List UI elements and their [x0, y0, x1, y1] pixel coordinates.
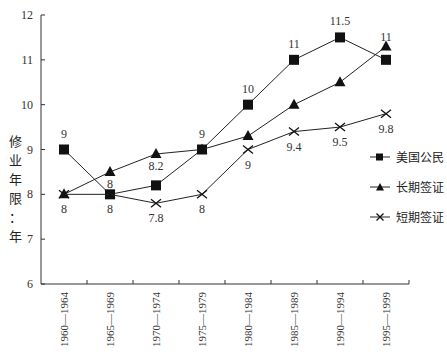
- y-tick-label: 9: [27, 143, 33, 157]
- x-tick-label: 1995—1999: [380, 292, 392, 348]
- legend-label: 美国公民: [396, 148, 444, 166]
- x-marker: [243, 146, 253, 154]
- legend-item-long-term-visa: 长期签证: [370, 172, 444, 202]
- x-tick-label: 1990—1994: [334, 292, 346, 348]
- data-label: 11: [380, 30, 392, 44]
- square-marker: [381, 55, 391, 65]
- x-tick-label: 1960—1964: [58, 292, 70, 348]
- y-tick-label: 11: [21, 53, 33, 67]
- data-label: 9: [61, 127, 67, 141]
- y-label-char: 年: [8, 170, 22, 189]
- y-tick-label: 8: [27, 187, 33, 201]
- y-tick-label: 6: [27, 277, 33, 291]
- axes: 67891011121960—19641965—19691970—1974197…: [21, 8, 409, 347]
- triangle-marker: [151, 148, 162, 158]
- triangle-marker: [289, 99, 300, 109]
- square-marker-icon: [370, 152, 390, 162]
- square-marker: [243, 100, 253, 110]
- x-tick-label: 1980—1984: [242, 292, 254, 348]
- y-tick-label: 10: [21, 98, 33, 112]
- legend-label: 短期签证: [396, 208, 444, 226]
- x-marker: [151, 199, 161, 207]
- data-label: 10: [242, 82, 254, 96]
- y-label-char: 修: [8, 132, 22, 151]
- x-marker: [197, 190, 207, 198]
- legend: 美国公民 长期签证 短期签证: [370, 142, 444, 232]
- x-tick-label: 1975—1979: [196, 292, 208, 348]
- data-label: 8: [107, 177, 113, 191]
- data-label: 8: [107, 202, 113, 216]
- data-label: 9.8: [379, 122, 394, 136]
- data-label: 11: [288, 37, 300, 51]
- legend-label: 长期签证: [396, 178, 444, 196]
- legend-item-short-term-visa: 短期签证: [370, 202, 444, 232]
- x-marker-icon: [370, 212, 390, 222]
- data-label: 8.2: [149, 159, 164, 173]
- y-label-char: 限: [8, 189, 22, 208]
- triangle-marker-icon: [370, 182, 390, 192]
- square-marker: [289, 55, 299, 65]
- y-axis-label: 修 业 年 限 ： 年: [8, 132, 22, 246]
- series-1: [59, 40, 392, 198]
- data-label: 8: [61, 202, 67, 216]
- triangle-marker: [243, 130, 254, 140]
- data-label: 11.5: [330, 14, 351, 28]
- x-tick-label: 1965—1969: [104, 292, 116, 348]
- y-label-char: 业: [8, 151, 22, 170]
- data-label: 9.4: [287, 140, 302, 154]
- y-tick-label: 12: [21, 8, 33, 22]
- square-marker: [59, 145, 69, 155]
- legend-item-us-citizen: 美国公民: [370, 142, 444, 172]
- y-tick-label: 7: [27, 232, 33, 246]
- x-tick-label: 1985—1989: [288, 292, 300, 348]
- series-2: [59, 110, 391, 208]
- data-label: 7.8: [149, 211, 164, 225]
- square-marker: [151, 180, 161, 190]
- square-marker: [335, 32, 345, 42]
- x-marker: [381, 110, 391, 118]
- triangle-marker: [335, 76, 346, 86]
- data-label: 9: [245, 158, 251, 172]
- data-label: 9: [199, 127, 205, 141]
- y-label-char: 年: [8, 227, 22, 246]
- data-label: 8: [199, 202, 205, 216]
- y-label-char: ：: [8, 208, 22, 227]
- data-label: 9.5: [333, 135, 348, 149]
- x-tick-label: 1970—1974: [150, 292, 162, 348]
